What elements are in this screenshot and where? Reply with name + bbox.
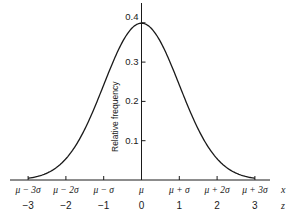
z-tick-label: 0 — [139, 200, 145, 211]
x-tick-label: μ − 3σ — [14, 185, 41, 195]
z-tick-label: 1 — [177, 200, 183, 211]
y-ticks: 0.10.20.30.4 — [125, 11, 145, 146]
y-tick-label: 0.3 — [125, 56, 138, 67]
x-tick-label: μ + σ — [168, 185, 190, 195]
z-tick-label: 3 — [252, 200, 258, 211]
x-tick-label: μ − σ — [92, 185, 114, 195]
x-ticks: μ − 3σ−3μ − 2σ−2μ − σ−1μ0μ + σ1μ + 2σ2μ … — [14, 176, 267, 211]
x-tick-label: μ + 3σ — [241, 185, 268, 195]
z-tick-label: −2 — [60, 200, 72, 211]
z-tick-label: −3 — [22, 200, 34, 211]
normal-distribution-chart: 0.10.20.30.4 μ − 3σ−3μ − 2σ−2μ − σ−1μ0μ … — [0, 0, 295, 223]
y-tick-label: 0.1 — [125, 135, 138, 146]
y-axis-label: Relative frequency — [110, 81, 120, 152]
y-tick-label: 0.2 — [125, 95, 138, 106]
z-tick-label: −1 — [98, 200, 110, 211]
x-tick-label: μ — [138, 185, 144, 195]
axes — [10, 3, 270, 180]
x-tick-label: μ − 2σ — [52, 185, 79, 195]
z-tick-label: 2 — [214, 200, 220, 211]
x-axis-label: x — [280, 184, 286, 195]
y-tick-label: 0.4 — [125, 11, 138, 22]
x-tick-label: μ + 2σ — [203, 185, 230, 195]
z-axis-label: z — [280, 200, 285, 211]
